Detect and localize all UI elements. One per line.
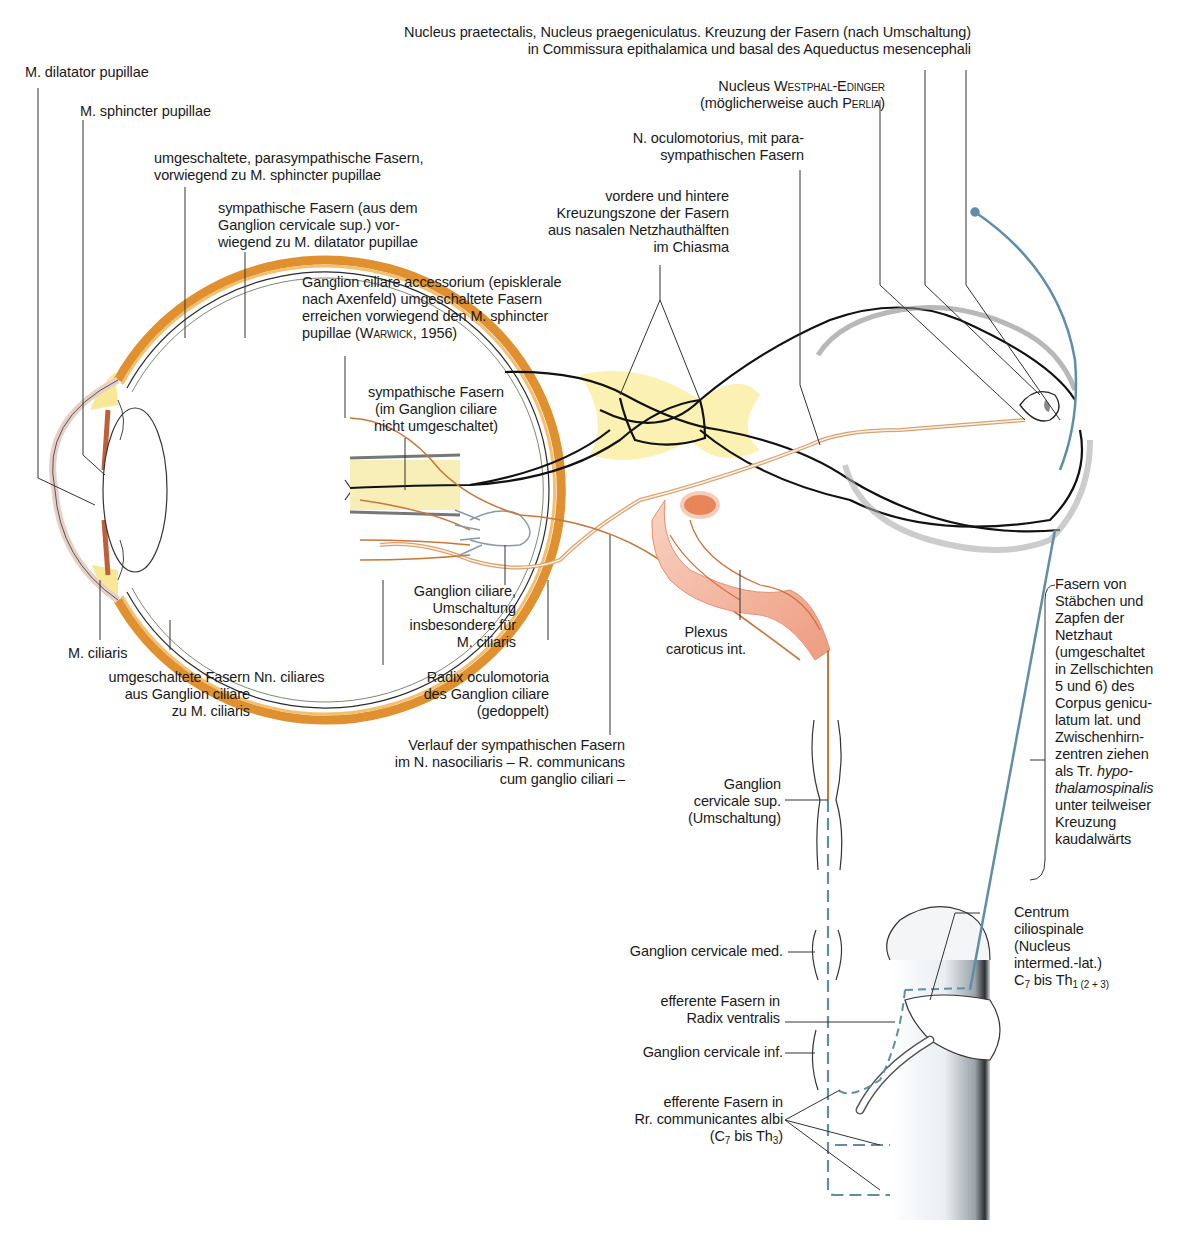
midbrain-outline (818, 308, 1090, 551)
label-kreuzungszone-chiasma: vordere und hintere Kreuzungszone der Fa… (548, 188, 729, 256)
label-plexus-caroticus-int: Plexus caroticus int. (666, 624, 746, 658)
label-nn-ciliares: Nn. ciliares (254, 669, 325, 686)
label-parasympathische-fasern: umgeschaltete, parasympathische Fasern, … (154, 150, 423, 184)
label-umgeschaltete-fasern-ciliaris: umgeschaltete Fasern aus Ganglion ciliar… (109, 669, 250, 720)
label-nucleus-westphal-edinger: Nucleus Westphal-Edinger (möglicherweise… (700, 78, 885, 112)
pupillary-pathway-diagram (0, 0, 1196, 1239)
label-n-oculomotorius: N. oculomotorius, mit para- sympathische… (633, 130, 804, 164)
label-verlauf-sympathische-fasern: Verlauf der sympathischen Fasern im N. n… (395, 737, 625, 788)
label-radix-oculomotoria: Radix oculomotoria des Ganglion ciliare … (424, 669, 549, 720)
ciliary-ganglion (455, 510, 530, 555)
label-ganglion-cervicale-sup: Ganglion cervicale sup. (Umschaltung) (688, 776, 781, 827)
label-m-sphincter-pupillae: M. sphincter pupillae (80, 103, 211, 120)
label-efferente-fasern-rr-communicantes: efferente Fasern in Rr. communicantes al… (635, 1094, 784, 1145)
label-fasern-staebchen-zapfen: Fasern von Stäbchen und Zapfen der Netzh… (1055, 576, 1153, 848)
label-sympathische-fasern-nicht-umgeschaltet: sympathische Fasern (im Ganglion ciliare… (368, 384, 504, 435)
label-ganglion-cervicale-med: Ganglion cervicale med. (630, 943, 783, 960)
label-ganglion-ciliare: Ganglion ciliare, Umschaltung insbesonde… (410, 583, 516, 651)
label-centrum-ciliospinale: Centrum ciliospinale (Nucleus intermed.-… (1014, 904, 1109, 989)
label-nucleus-praetectalis: Nucleus praetectalis, Nucleus praegenicu… (404, 24, 971, 58)
label-sympathische-fasern-dilatator: sympathische Fasern (aus dem Ganglion ce… (218, 200, 418, 251)
label-ganglion-cervicale-inf: Ganglion cervicale inf. (643, 1044, 783, 1061)
label-efferente-fasern-radix-ventralis: efferente Fasern in Radix ventralis (660, 993, 780, 1027)
label-ganglion-ciliare-accessorium: Ganglion ciliare accessorium (episkleral… (302, 274, 561, 342)
label-m-ciliaris: M. ciliaris (68, 645, 127, 662)
label-m-dilatator-pupillae: M. dilatator pupillae (25, 64, 149, 81)
